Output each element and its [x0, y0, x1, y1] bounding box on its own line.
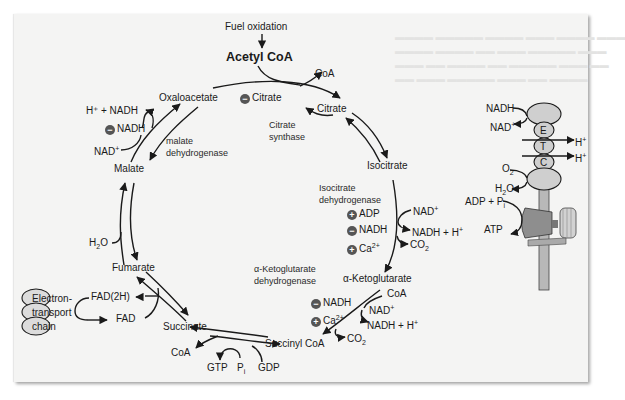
co2-isocitrate-label: CO2 [410, 239, 429, 255]
fad-label: FAD [116, 313, 135, 325]
succinate-label: Succinate [163, 321, 207, 333]
akg-dehydrogenase-enzyme: α-Ketoglutaratedehydrogenase [254, 263, 316, 287]
pi-label: Pi [237, 362, 245, 378]
coa-released-label: CoA [315, 68, 334, 80]
etc-left-label: Electron-transportchain [32, 292, 72, 334]
h-plus-pumped-2: H+ [575, 150, 586, 165]
malate-dehydrogenase-enzyme: malatedehydrogenase [166, 135, 228, 159]
complex-c-label: C [540, 157, 547, 169]
nadh-akg-label: NADH + H+ [367, 317, 418, 332]
inhibitor-icon: − [105, 125, 115, 135]
h-plus-pumped-1: H+ [575, 134, 586, 149]
gdp-label: GDP [258, 362, 280, 374]
activator-icon: + [347, 210, 357, 220]
malate-label: Malate [114, 163, 144, 175]
complex-e-label: E [540, 125, 547, 137]
nadh-malate-label: H⁺ + NADH [86, 105, 138, 117]
adp-pi-label: ADP + Pi [465, 196, 505, 212]
inhibitor-icon: − [311, 299, 321, 309]
inhibitor-icon: − [347, 226, 357, 236]
co2-akg-label: CO2 [347, 333, 366, 349]
complex-t-label: T [540, 141, 546, 153]
citrate-synthase-regulator: −Citrate [240, 92, 281, 104]
activator-icon: + [347, 245, 357, 255]
nad-isocitrate-label: NAD+ [413, 203, 438, 218]
akg-dh-regulators: −NADH +Ca2+ [311, 295, 351, 328]
nadh-isocitrate-label: NADH + H+ [412, 224, 463, 239]
etc-nad-label: NAD+ [490, 119, 515, 134]
h2o-fumarase-label: H2O [89, 237, 108, 253]
citrate-synthase-enzyme: Citratesynthase [269, 119, 305, 143]
activator-icon: + [311, 317, 321, 327]
fumarate-label: Fumarate [112, 262, 155, 274]
etc-nadh-label: NADH [486, 103, 514, 115]
isocitrate-label: Isocitrate [367, 160, 408, 172]
gtp-label: GTP [207, 362, 228, 374]
fuel-oxidation-label: Fuel oxidation [225, 21, 287, 33]
citrate-label: Citrate [317, 103, 346, 115]
isocitrate-dehydrogenase-enzyme: Isocitratedehydrogenase [319, 182, 381, 206]
malate-dh-regulator: −NADH [105, 123, 145, 135]
succinyl-coa-label: Succinyl CoA [265, 338, 324, 350]
coa-succinyl-label: CoA [171, 347, 190, 359]
oxaloacetate-label: Oxaloacetate [159, 92, 218, 104]
coa-akg-label: CoA [387, 288, 406, 300]
alpha-ketoglutarate-label: α-Ketoglutarate [343, 273, 412, 285]
fad2h-label: FAD(2H) [91, 291, 130, 303]
nad-malate-label: NAD+ [94, 143, 119, 158]
etc-o2-label: O2 [502, 163, 514, 179]
inhibitor-icon: − [240, 94, 250, 104]
nad-akg-label: NAD+ [369, 302, 394, 317]
atp-label: ATP [484, 224, 503, 236]
acetyl-coa-label: Acetyl CoA [226, 51, 293, 63]
isocitrate-dh-regulators: +ADP −NADH +Ca2+ [347, 206, 387, 257]
